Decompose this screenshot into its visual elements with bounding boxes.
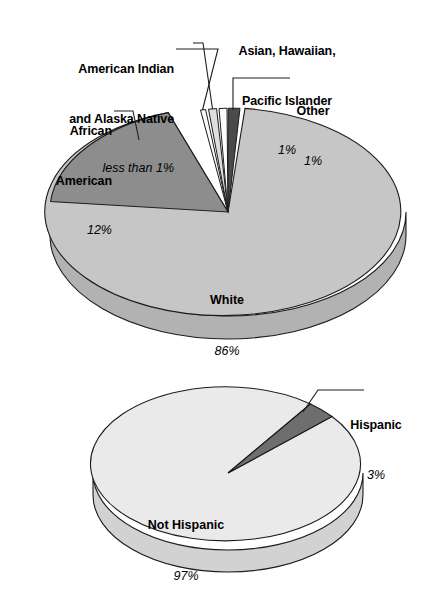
label-hispanic: Hispanic 3%	[322, 382, 430, 517]
label-white-name: White	[182, 293, 272, 307]
label-american-indian-name-line1: American Indian	[22, 62, 174, 76]
label-white: White 86%	[182, 256, 272, 395]
label-african-american-name-line2: American	[4, 174, 112, 188]
label-african-american: African American 12%	[4, 88, 112, 273]
label-not-hispanic-pct: 97%	[124, 569, 248, 583]
leader-line-asian	[193, 43, 213, 109]
two-pie-chart-figure: American Indian and Alaska Native less t…	[0, 0, 435, 595]
label-white-pct: 86%	[182, 344, 272, 358]
label-other-pct: 1%	[268, 154, 358, 168]
label-hispanic-name: Hispanic	[322, 418, 430, 432]
label-african-american-pct: 12%	[4, 223, 112, 237]
label-asian-name-line1: Asian, Hawaiian,	[222, 44, 352, 58]
label-other-name: Other	[268, 104, 358, 118]
label-african-american-name-line1: African	[4, 124, 112, 138]
label-hispanic-pct: 3%	[322, 468, 430, 482]
label-not-hispanic-name: Not Hispanic	[124, 518, 248, 532]
label-other: Other 1%	[268, 68, 358, 203]
label-not-hispanic: Not Hispanic 97%	[124, 481, 248, 595]
